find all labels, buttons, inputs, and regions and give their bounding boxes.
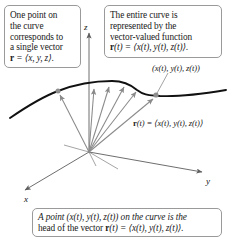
x-axis [25,152,89,190]
callout-left: One point on the curve corresponds to a … [4,5,81,68]
callout-left-line-3: corresponds to [10,32,76,43]
axis-label-y: y [206,176,210,186]
figure-canvas: One point on the curve corresponds to a … [0,0,227,239]
vector-arrow [60,95,89,152]
vector-arrow [89,92,136,152]
curve-point-label: (x(t), y(t), z(t)) [152,63,200,73]
vector-function-label-rest: (t) = ⟨x(t), y(t), z(t)⟩ [137,118,203,128]
callout-left-line-4: a single vector [10,42,76,53]
callout-bottom-line-2-text: head of the vector [38,223,105,233]
callout-bottom-line-2: head of the vector r(t) = ⟨x(t), y(t), z… [38,223,217,234]
callout-left-formula-rest: = ⟨x, y, z⟩. [14,53,54,63]
axis-label-x: x [24,194,28,204]
callout-top-formula-rest: (t) = ⟨x(t), y(t), z(t)⟩. [114,42,188,52]
space-curve [10,81,226,118]
callout-top-line-2: represented by the [110,21,217,32]
callout-bottom: A point (x(t), y(t), z(t)) on the curve … [32,208,222,237]
callout-left-line-2: the curve [10,21,76,32]
callout-left-formula: r = ⟨x, y, z⟩. [10,53,76,64]
axis-label-z: z [84,22,88,32]
callout-bottom-line-2-formula: (t) = ⟨x(t), y(t), z(t)⟩. [109,223,183,233]
callout-top-line-3: vector-valued function [110,32,217,43]
callout-bottom-line-1: A point (x(t), y(t), z(t)) on the curve … [38,212,217,223]
vector-function-label: r(t) = ⟨x(t), y(t), z(t)⟩ [133,118,203,128]
curve-point-marker [56,89,61,94]
callout-top-formula: r(t) = ⟨x(t), y(t), z(t)⟩. [110,42,217,53]
callout-top-line-1: The entire curve is [110,10,217,21]
callout-left-line-1: One point on [10,10,76,21]
leader-line-point-label [156,73,168,95]
y-axis-back [64,145,89,152]
callout-top: The entire curve is represented by the v… [104,5,222,58]
